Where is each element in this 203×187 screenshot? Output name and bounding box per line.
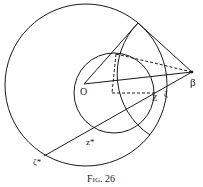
dashed-top-to-beta [116, 54, 192, 72]
label-zeta: ζ [164, 89, 168, 99]
label-z-star: z* [86, 137, 95, 147]
label-beta: β [190, 76, 196, 88]
figure-caption: Fig. 26 [87, 173, 115, 184]
line-o-to-beta [84, 72, 192, 84]
line-o-to-tangent [84, 23, 138, 84]
tangent-line-to-beta [138, 23, 192, 72]
label-o: O [80, 86, 87, 97]
label-zeta-star: ζ* [33, 157, 42, 167]
figure-26-diagram: O β Z ζ z* ζ* Fig. 26 [0, 0, 203, 187]
label-z: Z [152, 93, 158, 103]
beta-point [191, 71, 193, 73]
dashed-perpendicular [112, 54, 116, 93]
